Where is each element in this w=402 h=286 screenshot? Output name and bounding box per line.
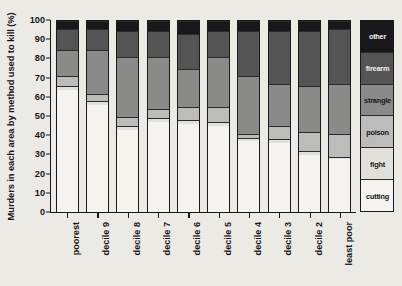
legend-label: strangle — [362, 96, 393, 105]
legend-label: firearm — [362, 64, 393, 73]
x-tick-mark — [158, 213, 159, 218]
x-tick-label: decile 8 — [132, 222, 142, 255]
x-tick-label: poorest — [71, 222, 81, 255]
x-tick-label: decile 5 — [223, 222, 233, 255]
x-tick-label: decile 3 — [283, 222, 293, 255]
legend-label: other — [362, 32, 393, 41]
legend-item-other: other — [361, 21, 393, 53]
x-tick-mark — [219, 213, 220, 218]
legend-item-poison: poison — [361, 116, 393, 148]
legend-item-fight: fight — [361, 148, 393, 180]
legend-item-firearm: firearm — [361, 53, 393, 85]
chart-legend: otherfirearmstranglepoisonfightcutting — [360, 20, 394, 212]
x-tick-label: decile 6 — [192, 222, 202, 255]
x-tick-mark — [97, 213, 98, 218]
legend-item-cutting: cutting — [361, 180, 393, 211]
x-tick-mark — [249, 213, 250, 218]
legend-item-strangle: strangle — [361, 85, 393, 117]
x-tick-mark — [188, 213, 189, 218]
x-tick-label: least poor — [344, 222, 354, 265]
legend-label: poison — [362, 127, 393, 136]
legend-label: cutting — [362, 191, 393, 200]
x-tick-mark — [128, 213, 129, 218]
x-tick-label: decile 2 — [314, 222, 324, 255]
x-tick-label: decile 4 — [253, 222, 263, 255]
x-tick-label: decile 7 — [162, 222, 172, 255]
x-tick-label: decile 9 — [101, 222, 111, 255]
x-tick-mark — [279, 213, 280, 218]
x-tick-mark — [310, 213, 311, 218]
x-tick-mark — [67, 213, 68, 218]
legend-label: fight — [362, 159, 393, 168]
x-axis-ticks: poorestdecile 9decile 8decile 7decile 6d… — [0, 0, 402, 286]
x-tick-mark — [340, 213, 341, 218]
chart-figure: Murders in each area by method used to k… — [0, 0, 402, 286]
